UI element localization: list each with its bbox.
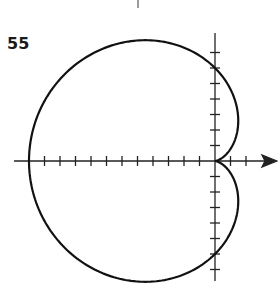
polar-plot bbox=[0, 0, 278, 296]
axes bbox=[14, 33, 277, 281]
